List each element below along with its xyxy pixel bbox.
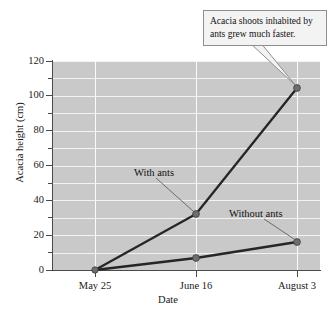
- y-tick-label-60: 60: [34, 159, 45, 170]
- y-tick-label-100: 100: [28, 89, 44, 100]
- gridline-y-100: [53, 96, 320, 97]
- gridline-y-20: [53, 235, 320, 236]
- y-tick-label-20: 20: [34, 229, 45, 240]
- y-tick-label-80: 80: [34, 124, 45, 135]
- y-tick-100: [46, 95, 53, 96]
- x-tick-label-june-16: June 16: [180, 280, 212, 291]
- x-tick-label-august-3: August 3: [278, 280, 316, 291]
- y-tick-120: [46, 61, 53, 62]
- y-tick-minor-110: [48, 78, 53, 79]
- y-tick-minor-30: [48, 217, 53, 218]
- annotation-callout: Acacia shoots inhabited by ants grew muc…: [203, 10, 327, 46]
- y-tick-minor-50: [48, 183, 53, 184]
- y-tick-0: [46, 270, 53, 271]
- gridline-y-80: [53, 131, 320, 132]
- gridline-y-120: [53, 61, 320, 62]
- gridline-y-90: [53, 113, 320, 114]
- x-tick-august-3: [297, 271, 298, 277]
- series-label-without-ants: Without ants: [229, 208, 283, 219]
- x-axis-line: [52, 270, 321, 271]
- x-tick-june-16: [196, 271, 197, 277]
- x-tick-may-25: [95, 271, 96, 277]
- chart-figure: 120 100 80 60 40 20 0 May 25 June 16 Aug…: [0, 0, 336, 314]
- y-tick-60: [46, 165, 53, 166]
- y-tick-minor-10: [48, 252, 53, 253]
- x-axis-title: Date: [0, 294, 336, 305]
- y-tick-label-40: 40: [34, 194, 45, 205]
- gridline-y-60: [53, 166, 320, 167]
- y-tick-minor-90: [48, 113, 53, 114]
- gridline-x-may-25: [95, 61, 96, 270]
- gridline-y-70: [53, 148, 320, 149]
- gridline-y-10: [53, 253, 320, 254]
- y-tick-80: [46, 130, 53, 131]
- y-tick-40: [46, 200, 53, 201]
- y-axis-title: Acacia height (cm): [14, 68, 25, 218]
- gridline-y-40: [53, 200, 320, 201]
- y-tick-20: [46, 235, 53, 236]
- gridline-y-110: [53, 78, 320, 79]
- y-tick-label-0: 0: [39, 264, 44, 275]
- gridline-x-august-3: [297, 61, 298, 270]
- gridline-x-june-16: [196, 61, 197, 270]
- series-label-with-ants: With ants: [134, 167, 174, 178]
- plot-area: [53, 61, 320, 270]
- y-tick-minor-70: [48, 148, 53, 149]
- y-tick-label-120: 120: [28, 55, 44, 66]
- x-tick-label-may-25: May 25: [79, 280, 111, 291]
- gridline-y-50: [53, 183, 320, 184]
